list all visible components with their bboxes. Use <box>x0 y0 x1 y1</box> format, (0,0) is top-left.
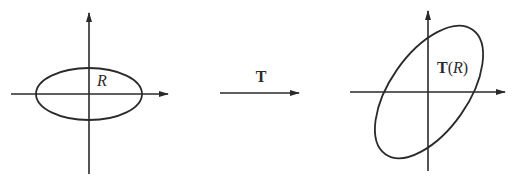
left-coordinate-plane: R <box>11 13 168 174</box>
transformation-arrow-group: T <box>220 68 299 93</box>
region-tr-label-r: R <box>452 59 463 76</box>
region-tr-label: T(R) <box>437 59 468 77</box>
region-tr-label-close: ) <box>463 59 468 77</box>
diagram-canvas: R T T(R) <box>0 0 512 180</box>
transformation-diagram: R T T(R) <box>0 0 512 180</box>
right-coordinate-plane: T(R) <box>350 7 505 176</box>
region-r-label: R <box>96 72 107 89</box>
transformation-label: T <box>256 68 267 85</box>
region-tr-label-t: T <box>437 59 448 76</box>
